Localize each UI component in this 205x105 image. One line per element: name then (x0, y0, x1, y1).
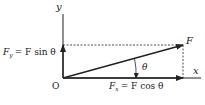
x-axis-label: x (193, 65, 199, 76)
fx-subscript: x (115, 85, 119, 92)
fx-equation: = F cos θ (121, 81, 164, 91)
angle-label: θ (142, 62, 148, 72)
fy-subscript: y (8, 51, 13, 59)
y-axis-label: y (55, 1, 62, 12)
origin-label: O (52, 81, 59, 91)
fy-equation-label: Fy= F sin θ (2, 47, 56, 59)
force-decomposition-diagram: y x O F θ Fy= F sin θ Fx= F cos θ (0, 0, 205, 105)
fy-equation: = F sin θ (15, 47, 56, 57)
force-label: F (185, 35, 194, 46)
angle-arc (135, 59, 137, 79)
fx-equation-label: Fx= F cos θ (108, 81, 164, 92)
force-vector-arrow (63, 45, 183, 78)
